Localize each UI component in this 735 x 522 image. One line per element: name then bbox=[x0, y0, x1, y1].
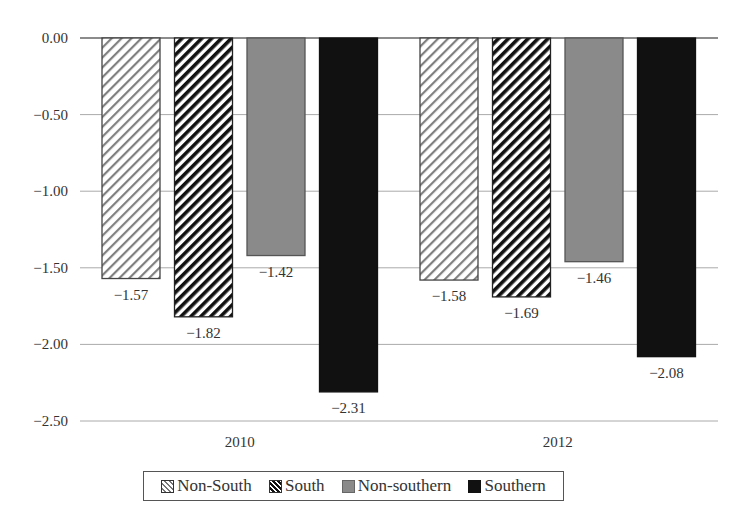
legend-item-southern: Southern bbox=[468, 476, 545, 496]
gray-swatch-icon bbox=[342, 480, 355, 493]
y-tick-label: −1.50 bbox=[33, 260, 68, 276]
x-category-label: 2010 bbox=[225, 434, 255, 450]
legend-label: Non-South bbox=[177, 476, 252, 496]
legend-item-non-southern: Non-southern bbox=[342, 476, 451, 496]
black-swatch-icon bbox=[468, 480, 481, 493]
y-tick-label: −1.00 bbox=[33, 183, 68, 199]
bar-value-label: −1.46 bbox=[577, 270, 612, 286]
bar-non-southern-2012 bbox=[565, 38, 623, 262]
legend-label: Non-southern bbox=[358, 476, 451, 496]
bar-value-label: −1.58 bbox=[432, 288, 467, 304]
bar-southern-2012 bbox=[638, 38, 696, 357]
y-tick-label: −2.00 bbox=[33, 336, 68, 352]
bar-value-label: −1.57 bbox=[114, 287, 149, 303]
y-tick-label: −0.50 bbox=[33, 107, 68, 123]
bar-value-label: −1.69 bbox=[504, 305, 539, 321]
bar-non-southern-2010 bbox=[247, 38, 305, 256]
legend: Non-South South Non-southern Southern bbox=[143, 471, 564, 501]
bar-value-label: −2.08 bbox=[649, 365, 684, 381]
bar-south-2010 bbox=[175, 38, 233, 317]
bar-chart: 0.00−0.50−1.00−1.50−2.00−2.50 −1.57−1.82… bbox=[0, 0, 735, 522]
hatch-dark-swatch-icon bbox=[269, 480, 282, 493]
legend-label: Southern bbox=[484, 476, 545, 496]
x-category-label: 2012 bbox=[543, 434, 573, 450]
legend-item-south: South bbox=[269, 476, 325, 496]
bar-value-label: −2.31 bbox=[331, 400, 366, 416]
y-axis: 0.00−0.50−1.00−1.50−2.00−2.50 bbox=[33, 30, 68, 429]
legend-item-non-south: Non-South bbox=[161, 476, 252, 496]
bar-non-south-2012 bbox=[420, 38, 478, 280]
bar-value-label: −1.82 bbox=[186, 325, 221, 341]
legend-label: South bbox=[285, 476, 325, 496]
bar-non-south-2010 bbox=[102, 38, 160, 279]
bar-south-2012 bbox=[493, 38, 551, 297]
y-tick-label: 0.00 bbox=[42, 30, 68, 46]
y-tick-label: −2.50 bbox=[33, 413, 68, 429]
bar-value-label: −1.42 bbox=[259, 264, 294, 280]
bar-southern-2010 bbox=[320, 38, 378, 392]
x-axis: 20102012 bbox=[225, 434, 573, 450]
hatch-light-swatch-icon bbox=[161, 480, 174, 493]
